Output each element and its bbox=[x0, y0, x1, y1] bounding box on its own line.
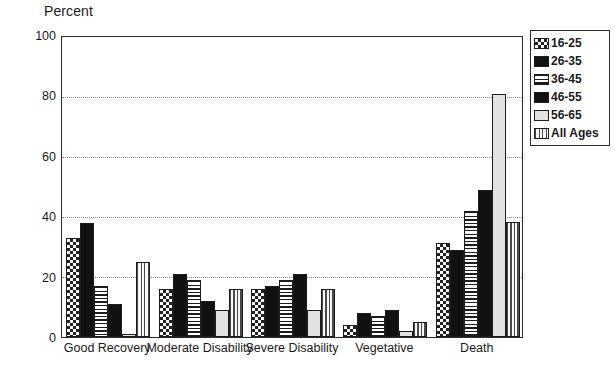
bar bbox=[80, 223, 94, 337]
bar-group bbox=[436, 37, 520, 337]
bar bbox=[94, 286, 108, 337]
legend-swatch-icon bbox=[534, 128, 549, 139]
legend-swatch-icon bbox=[534, 38, 549, 49]
bar-group bbox=[343, 37, 427, 337]
legend-item-label: 56-65 bbox=[551, 109, 582, 121]
legend-item[interactable]: 56-65 bbox=[534, 106, 606, 124]
bar bbox=[201, 301, 215, 337]
bar bbox=[66, 238, 80, 337]
bar-group bbox=[251, 37, 335, 337]
bar-group bbox=[159, 37, 243, 337]
bar bbox=[251, 289, 265, 337]
chart-legend: 16-2526-3536-4546-5556-65All Ages bbox=[530, 30, 610, 146]
bar bbox=[385, 310, 399, 337]
legend-item[interactable]: 36-45 bbox=[534, 70, 606, 88]
x-axis-category-label: Good Recovery bbox=[64, 341, 151, 355]
legend-item[interactable]: All Ages bbox=[534, 124, 606, 142]
bar bbox=[293, 274, 307, 337]
bar bbox=[399, 331, 413, 337]
bar-group bbox=[66, 37, 150, 337]
legend-swatch-icon bbox=[534, 110, 549, 121]
legend-swatch-icon bbox=[534, 74, 549, 85]
bar bbox=[478, 190, 492, 337]
bar bbox=[187, 280, 201, 337]
bar bbox=[506, 222, 520, 338]
bar bbox=[464, 211, 478, 337]
legend-item-label: All Ages bbox=[551, 127, 599, 139]
legend-item-label: 36-45 bbox=[551, 73, 582, 85]
y-axis-tick-label: 60 bbox=[6, 151, 56, 164]
plot-area bbox=[61, 36, 523, 338]
bar bbox=[357, 313, 371, 337]
y-axis-ticks: 020406080100 bbox=[0, 36, 56, 338]
bar bbox=[436, 243, 450, 338]
y-axis-tick-label: 40 bbox=[6, 211, 56, 224]
legend-item-label: 26-35 bbox=[551, 55, 582, 67]
legend-item[interactable]: 46-55 bbox=[534, 88, 606, 106]
bar bbox=[108, 304, 122, 337]
y-axis-tick-label: 100 bbox=[6, 30, 56, 43]
legend-item[interactable]: 26-35 bbox=[534, 52, 606, 70]
y-axis-tick-label: 0 bbox=[6, 332, 56, 345]
bar bbox=[173, 274, 187, 337]
legend-swatch-icon bbox=[534, 56, 549, 67]
y-axis-tick-label: 20 bbox=[6, 271, 56, 284]
bar bbox=[229, 289, 243, 337]
bar bbox=[215, 310, 229, 337]
bars-container bbox=[62, 37, 522, 337]
legend-swatch-icon bbox=[534, 92, 549, 103]
bar bbox=[265, 286, 279, 337]
legend-item-label: 46-55 bbox=[551, 91, 582, 103]
x-axis-category-label: Vegetative bbox=[355, 341, 413, 355]
x-axis-category-label: Severe Disability bbox=[245, 341, 338, 355]
bar bbox=[159, 289, 173, 337]
bar bbox=[450, 250, 464, 337]
x-axis-labels: Good RecoveryModerate DisabilitySevere D… bbox=[61, 341, 523, 365]
bar bbox=[122, 334, 136, 337]
x-axis-category-label: Death bbox=[460, 341, 493, 355]
legend-item-label: 16-25 bbox=[551, 37, 582, 49]
bar bbox=[136, 262, 150, 337]
bar-chart: Percent 020406080100 Good RecoveryModera… bbox=[0, 0, 615, 367]
bar bbox=[307, 310, 321, 337]
bar bbox=[343, 325, 357, 337]
x-axis-category-label: Moderate Disability bbox=[146, 341, 252, 355]
y-axis-tick-label: 80 bbox=[6, 90, 56, 103]
bar bbox=[279, 280, 293, 337]
y-axis-title: Percent bbox=[44, 3, 93, 19]
bar bbox=[321, 289, 335, 337]
bar bbox=[492, 94, 506, 337]
bar bbox=[413, 322, 427, 337]
legend-item[interactable]: 16-25 bbox=[534, 34, 606, 52]
bar bbox=[371, 316, 385, 337]
